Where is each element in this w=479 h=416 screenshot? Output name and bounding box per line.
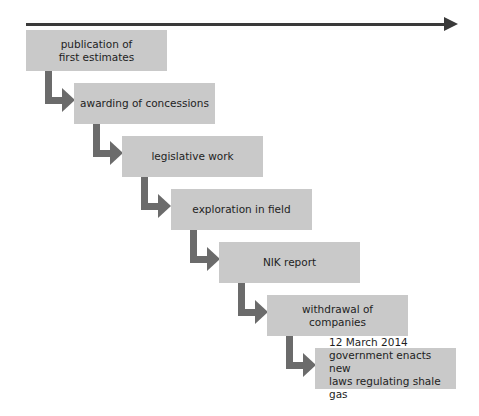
timeline-arrowhead-icon (444, 17, 458, 31)
timeline-axis (26, 23, 446, 26)
step-label: publication of first estimates (59, 38, 135, 64)
step-label: exploration in field (192, 203, 290, 216)
step-nik-report: NIK report (219, 242, 360, 283)
step-new-shale-gas-laws: 12 March 2014 government enacts new laws… (315, 348, 456, 389)
step-awarding-of-concessions: awarding of concessions (74, 83, 215, 124)
step-withdrawal-of-companies: withdrawal of companies (267, 295, 408, 336)
step-label: NIK report (263, 256, 316, 269)
step-label: 12 March 2014 government enacts new laws… (329, 336, 450, 401)
step-publication-of-first-estimates: publication of first estimates (26, 30, 167, 71)
step-label: legislative work (151, 150, 233, 163)
step-legislative-work: legislative work (122, 136, 263, 177)
step-label: withdrawal of companies (273, 303, 402, 329)
step-label: awarding of concessions (80, 97, 209, 110)
step-exploration-in-field: exploration in field (171, 189, 312, 230)
